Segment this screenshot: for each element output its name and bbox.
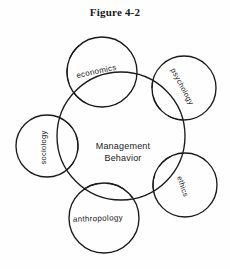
center-label: Management Behavior bbox=[78, 140, 168, 164]
label-anthropology: anthropology bbox=[73, 213, 123, 224]
center-label-line-2: Behavior bbox=[78, 152, 168, 164]
figure-title: Figure 4-2 bbox=[0, 6, 230, 18]
figure-page: Figure 4-2 Management bbox=[0, 0, 230, 269]
center-label-line-1: Management bbox=[78, 140, 168, 152]
label-sociology: sociology bbox=[39, 131, 48, 165]
venn-diagram: Management Behavior economics psychology… bbox=[0, 22, 230, 269]
